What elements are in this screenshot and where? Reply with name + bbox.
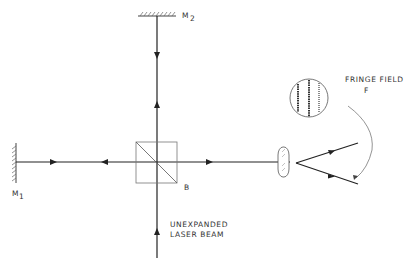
source-label-line1: UNEXPANDED bbox=[170, 220, 228, 229]
arrow-down-icon bbox=[154, 52, 160, 59]
lens bbox=[278, 147, 289, 177]
arrow-up-icon bbox=[154, 101, 160, 108]
fringe-field-f-label: F bbox=[364, 86, 369, 95]
mirror-m2: M 2 bbox=[138, 11, 195, 23]
mirror-m1: M 1 bbox=[12, 143, 24, 201]
interferometer-diagram: M 2 M 1 B bbox=[0, 0, 413, 259]
fringe-field-label: FRINGE FIELD bbox=[345, 75, 404, 84]
mirror-m1-subscript: 1 bbox=[19, 192, 24, 201]
curved-arrow-head-icon bbox=[353, 175, 358, 180]
laser-source-label: UNEXPANDED LASER BEAM bbox=[170, 220, 228, 239]
curved-arrow bbox=[348, 106, 372, 178]
horizontal-beam bbox=[16, 159, 290, 165]
arrow-right-icon bbox=[50, 159, 57, 165]
arrow-right-icon bbox=[206, 159, 213, 165]
source-label-line2: LASER BEAM bbox=[170, 230, 224, 239]
beam-splitter-label: B bbox=[184, 183, 190, 192]
arrow-icon bbox=[328, 150, 335, 155]
mirror-m2-subscript: 2 bbox=[190, 14, 195, 23]
vertical-beam bbox=[154, 16, 160, 258]
fringe-field: FRINGE FIELD F bbox=[290, 75, 404, 180]
arrow-left-icon bbox=[101, 159, 108, 165]
beam-splitter: B bbox=[136, 142, 190, 192]
arrow-up-icon bbox=[154, 228, 160, 235]
diverging-beams bbox=[296, 143, 358, 184]
mirror-m2-label: M bbox=[182, 11, 189, 20]
